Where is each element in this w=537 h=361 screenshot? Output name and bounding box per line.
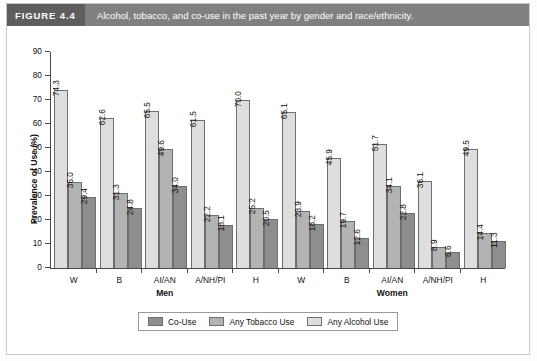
legend-label: Any Tobacco Use (229, 317, 294, 327)
bar-value-label: 6.6 (445, 245, 453, 256)
bar-value-label: 24.8 (126, 200, 134, 216)
bar-tobacco: 34.1 (387, 186, 401, 268)
y-axis-tick-label: 50 (33, 142, 42, 152)
bar-value-label: 20.5 (263, 210, 271, 226)
bar-value-label: 8.9 (431, 240, 439, 251)
legend-label: Any Alcohol Use (327, 317, 388, 327)
chart-plot-area: Prevalence of Use (%) 010203040506070809… (7, 27, 529, 354)
bar-couse: 18.2 (310, 224, 324, 268)
bar-set: 65.549.634.0 (145, 52, 187, 268)
x-axis-panel-label-women: Women (282, 288, 504, 298)
bar-value-label: 18.2 (308, 215, 316, 231)
y-axis-tick: 60 (45, 123, 50, 124)
bar-alcohol: 51.7 (373, 144, 387, 268)
bar-alcohol: 65.1 (282, 112, 296, 268)
y-axis-tick: 10 (45, 243, 50, 244)
bar-value-label: 65.1 (280, 103, 288, 119)
bar-value-label: 34.1 (385, 177, 393, 193)
bar-group: 74.336.029.4W (54, 52, 94, 268)
y-axis-tick-label: 80 (33, 70, 42, 80)
bar-couse: 18.1 (219, 225, 233, 268)
x-axis-panel-label-men: Men (54, 288, 276, 298)
bar-alcohol: 49.5 (464, 149, 478, 268)
bar-alcohol: 61.5 (191, 120, 205, 268)
chart-legend: Co-UseAny Tobacco UseAny Alcohol Use (138, 312, 398, 331)
x-axis-category-label: B (327, 275, 367, 285)
bar-group: 45.919.712.6B (327, 52, 367, 268)
bar-value-label: 65.5 (144, 102, 152, 118)
x-axis-tick (187, 268, 188, 273)
y-axis-tick-label: 90 (33, 46, 42, 56)
y-axis-tick-label: 10 (33, 238, 42, 248)
bar-value-label: 36.0 (67, 173, 75, 189)
bar-value-label: 36.1 (417, 172, 425, 188)
legend-item: Co-Use (148, 317, 196, 327)
bar-value-label: 25.2 (249, 199, 257, 215)
bar-value-label: 18.1 (217, 216, 225, 232)
y-axis-tick: 20 (45, 219, 50, 220)
x-axis-category-label: W (54, 275, 94, 285)
bar-group: 61.522.218.1A/NH/PI (191, 52, 231, 268)
y-axis-tick: 70 (45, 99, 50, 100)
x-axis-tick (232, 268, 233, 273)
bar-group: 65.123.918.2W (282, 52, 322, 268)
bar-alcohol: 65.5 (145, 111, 159, 268)
figure-header: FIGURE 4.4 Alcohol, tobacco, and co-use … (7, 4, 529, 26)
bar-value-label: 49.5 (462, 140, 470, 156)
y-axis-tick-label: 0 (37, 262, 42, 272)
bar-value-label: 49.6 (158, 140, 166, 156)
bar-set: 36.18.96.6 (418, 52, 460, 268)
bar-value-label: 12.6 (354, 229, 362, 245)
x-axis-category-label: A/NH/PI (418, 275, 458, 285)
bar-tobacco: 49.6 (159, 149, 173, 268)
bar-value-label: 14.4 (476, 224, 484, 240)
bar-couse: 12.6 (355, 238, 369, 268)
x-axis-category-label: B (100, 275, 140, 285)
x-axis-category-label: H (236, 275, 276, 285)
chart-axes: 010203040506070809074.336.029.4W62.631.3… (50, 52, 505, 268)
bar-value-label: 70.0 (235, 91, 243, 107)
bar-value-label: 62.6 (98, 109, 106, 125)
bar-alcohol: 70.0 (236, 100, 250, 268)
bar-set: 70.025.220.5 (236, 52, 278, 268)
bar-value-label: 31.3 (112, 184, 120, 200)
figure-caption: Alcohol, tobacco, and co-use in the past… (85, 10, 414, 21)
bar-value-label: 29.4 (81, 188, 89, 204)
bar-value-label: 22.2 (203, 206, 211, 222)
bar-set: 74.336.029.4 (54, 52, 96, 268)
x-axis-tick (141, 268, 142, 273)
legend-swatch (209, 317, 224, 326)
legend-swatch (148, 317, 163, 326)
figure-root: FIGURE 4.4 Alcohol, tobacco, and co-use … (0, 0, 537, 361)
x-axis-category-label: AI/AN (373, 275, 413, 285)
bar-group: 70.025.220.5H (236, 52, 276, 268)
y-axis-tick-label: 40 (33, 166, 42, 176)
legend-label: Co-Use (168, 317, 196, 327)
x-axis-tick (278, 268, 279, 273)
y-axis-tick: 0 (45, 267, 50, 268)
bar-group: 36.18.96.6A/NH/PI (418, 52, 458, 268)
bar-value-label: 23.9 (294, 202, 302, 218)
y-axis-tick: 90 (45, 51, 50, 52)
bar-couse: 24.8 (128, 208, 142, 268)
x-axis-category-label: H (464, 275, 504, 285)
bar-set: 51.734.122.8 (373, 52, 415, 268)
y-axis-tick-label: 70 (33, 94, 42, 104)
y-axis-tick-label: 20 (33, 214, 42, 224)
bar-couse: 20.5 (264, 219, 278, 268)
legend-item: Any Alcohol Use (307, 317, 388, 327)
bar-group: 51.734.122.8AI/AN (373, 52, 413, 268)
x-axis-category-label: A/NH/PI (191, 275, 231, 285)
bar-couse: 29.4 (82, 197, 96, 268)
y-axis-tick: 40 (45, 171, 50, 172)
bar-group: 65.549.634.0AI/AN (145, 52, 185, 268)
x-axis-tick (414, 268, 415, 273)
bar-value-label: 45.9 (326, 149, 334, 165)
bar-value-label: 19.7 (340, 212, 348, 228)
x-axis-tick (96, 268, 97, 273)
bar-value-label: 22.8 (399, 204, 407, 220)
y-axis-tick-label: 60 (33, 118, 42, 128)
bar-couse: 6.6 (446, 252, 460, 268)
y-axis-tick: 80 (45, 75, 50, 76)
bar-value-label: 34.0 (172, 177, 180, 193)
